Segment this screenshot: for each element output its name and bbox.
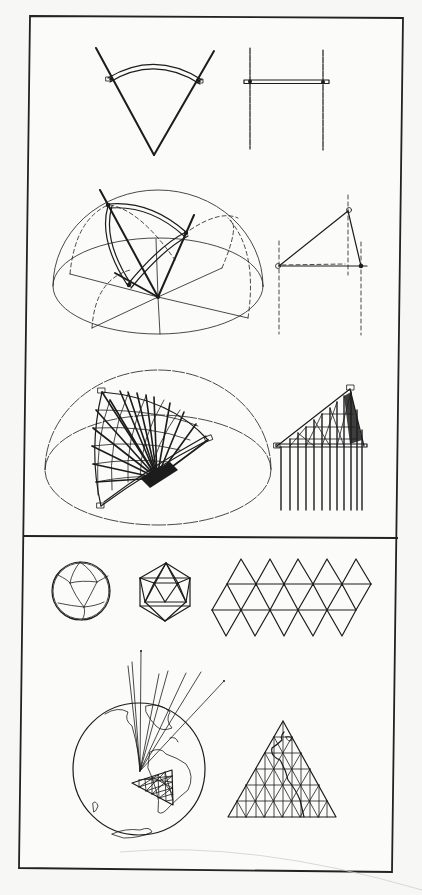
illustration-plate — [0, 0, 422, 895]
